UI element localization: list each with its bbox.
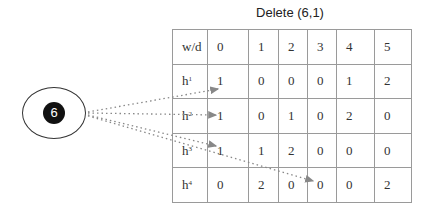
arrow-layer [0,0,440,215]
arrow-to-h4-col3 [88,116,313,181]
arrow-to-h3 [88,115,216,146]
arrow-to-h1 [88,89,218,112]
arrow-to-h2 [88,113,216,115]
